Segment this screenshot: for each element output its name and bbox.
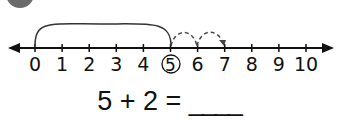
tick-label-8: 8 bbox=[246, 53, 258, 75]
tick-labels: 012345678910 bbox=[29, 53, 318, 75]
equation: 5 + 2 = ____ bbox=[0, 86, 338, 117]
tick-label-10: 10 bbox=[294, 53, 318, 75]
tick-label-4: 4 bbox=[137, 53, 149, 75]
answer-blank[interactable]: ____ bbox=[189, 86, 241, 116]
equation-text: 5 + 2 = bbox=[97, 86, 189, 116]
right-arrow-icon bbox=[322, 43, 334, 53]
tick-label-1: 1 bbox=[56, 53, 68, 75]
tick-label-3: 3 bbox=[110, 53, 122, 75]
tick-label-0: 0 bbox=[29, 53, 41, 75]
jump-arc-5-6 bbox=[171, 33, 197, 47]
problem-number-badge bbox=[6, 0, 34, 8]
big-jump-arc bbox=[35, 24, 171, 46]
jump-arc-6-7 bbox=[197, 32, 223, 46]
tick-label-6: 6 bbox=[192, 53, 204, 75]
tick-label-2: 2 bbox=[83, 53, 95, 75]
tick-label-7: 7 bbox=[219, 53, 231, 75]
tick-label-9: 9 bbox=[273, 53, 285, 75]
left-arrow-icon bbox=[8, 43, 20, 53]
